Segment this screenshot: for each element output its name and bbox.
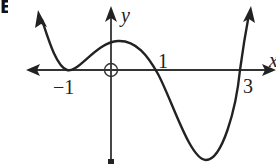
tick-label-one: 1 (158, 51, 168, 71)
polynomial-graph: E y x −1 1 3 (0, 0, 276, 164)
y-axis-label: y (121, 5, 130, 25)
tick-label-neg-one: −1 (53, 77, 74, 97)
x-axis-label: x (269, 50, 276, 70)
tick-label-three: 3 (243, 76, 253, 96)
curve-left-arrow-icon (35, 10, 47, 28)
graph-canvas (0, 0, 276, 164)
y-axis (105, 6, 117, 164)
